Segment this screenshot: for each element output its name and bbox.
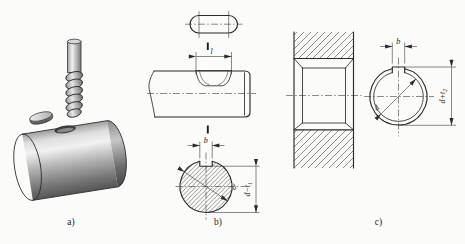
shaft-cross-section: d [176, 153, 247, 220]
panel-a-label: a) [67, 217, 74, 228]
panel-b-shaft-views: l d b [147, 12, 260, 229]
hub-section-view [286, 32, 362, 168]
dim-d-t1-text: d−t1 [244, 182, 254, 197]
dimension-length-l: l [196, 47, 232, 75]
panel-c-hub-views: d b d+t2 c) [286, 32, 456, 228]
keyway-figure: a) l [0, 0, 465, 244]
keyway-pocket [196, 71, 232, 86]
mill-shank-top [67, 39, 81, 44]
dim-b-text: b [204, 136, 208, 145]
shaft-side-view [147, 71, 256, 117]
end-mill-3d [65, 39, 84, 119]
key-top-view [185, 12, 243, 38]
dim-l-text: l [210, 47, 213, 56]
figure-canvas: a) l [0, 0, 465, 244]
shaft-3d [9, 117, 130, 202]
panel-b-label: b) [214, 217, 222, 228]
dim-b-hub-text: b [396, 37, 400, 46]
dim-d-t2-text: d+t2 [438, 89, 448, 104]
key-3d [29, 110, 54, 126]
mill-flutes [65, 70, 84, 119]
panel-a-3d-illustration: a) [9, 39, 130, 228]
hub-bore-view: d [364, 58, 434, 137]
panel-c-label: c) [375, 217, 382, 228]
break-line [149, 71, 155, 117]
